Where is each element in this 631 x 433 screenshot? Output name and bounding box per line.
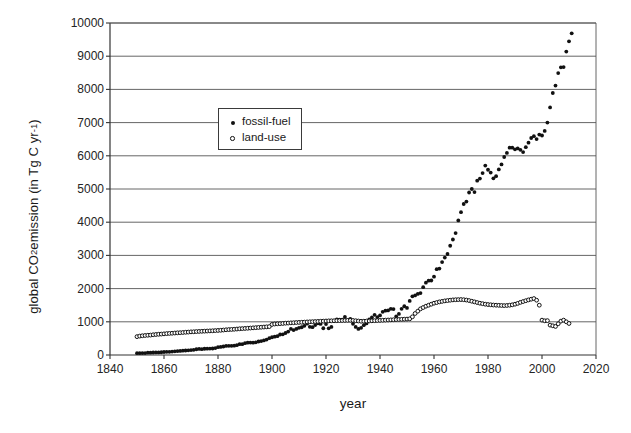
data-point (567, 39, 571, 43)
data-point (440, 260, 444, 264)
data-point (505, 151, 509, 155)
data-point (465, 200, 469, 204)
data-point (456, 219, 460, 223)
data-point (527, 141, 531, 145)
data-point (397, 312, 401, 316)
series-land-use (135, 297, 571, 339)
data-point (429, 279, 433, 283)
data-point (546, 121, 550, 125)
data-point (405, 306, 409, 310)
data-point (467, 191, 471, 195)
data-point (535, 298, 539, 302)
data-point (521, 150, 525, 154)
data-point (483, 164, 487, 168)
data-point (478, 177, 482, 181)
data-point (567, 322, 571, 326)
data-point (551, 91, 555, 95)
data-point (524, 145, 528, 149)
data-point (556, 71, 560, 75)
legend-item-land-use: land-use (227, 129, 291, 145)
data-point (330, 325, 334, 329)
data-point (446, 252, 450, 256)
data-point (548, 105, 552, 109)
data-point (564, 50, 568, 54)
data-point (419, 291, 423, 295)
data-point (543, 129, 547, 133)
data-point (392, 307, 396, 311)
data-point (540, 134, 544, 138)
legend-item-fossil-fuel: fossil-fuel (227, 113, 291, 129)
data-point (451, 238, 455, 242)
data-point (486, 168, 490, 172)
data-point (500, 163, 504, 167)
data-point (378, 314, 382, 318)
data-point (473, 190, 477, 194)
data-point (321, 326, 325, 330)
data-point (438, 267, 442, 271)
data-point (421, 285, 425, 289)
data-point (562, 65, 566, 69)
data-point (494, 174, 498, 178)
data-point (535, 137, 539, 141)
data-point (454, 231, 458, 235)
x-axis-label: year (110, 396, 596, 411)
data-point (448, 244, 452, 248)
legend-label-land-use: land-use (242, 129, 286, 145)
chart-figure: global CO2 emission (in Tg C yr-1) 01000… (0, 0, 631, 433)
data-point (459, 210, 463, 214)
data-point (497, 168, 501, 172)
data-point (537, 303, 541, 307)
data-point (570, 31, 574, 35)
data-point (489, 171, 493, 175)
data-point (443, 256, 447, 260)
data-point (532, 134, 536, 138)
legend-marker-filled-circle-icon (227, 113, 238, 129)
data-point (411, 315, 415, 319)
data-point (432, 275, 436, 279)
data-point (502, 155, 506, 159)
data-point (481, 171, 485, 175)
data-point (408, 299, 412, 303)
legend-label-fossil-fuel: fossil-fuel (242, 113, 291, 129)
legend-marker-open-circle-icon (227, 129, 238, 145)
plot-area (0, 0, 631, 433)
data-point (554, 84, 558, 88)
data-point (546, 319, 550, 323)
data-point (470, 187, 474, 191)
chart-legend: fossil-fuel land-use (218, 108, 302, 150)
